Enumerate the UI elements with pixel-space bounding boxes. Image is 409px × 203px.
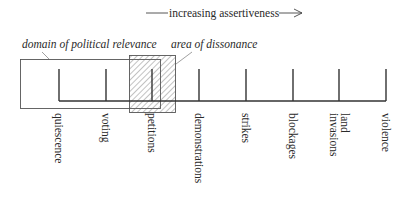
label-quiescence: quiescence [52,113,65,163]
label-petitions: petitions [145,113,158,153]
scale-axis [59,69,386,101]
axis-title-group: increasing assertiveness [146,7,302,20]
label-violence: violence [380,113,392,152]
category-labels: quiescence voting petitions demonstratio… [52,113,392,184]
label-blockages: blockages [286,113,299,160]
domain-leader-line [42,52,49,59]
label-strikes: strikes [240,113,252,144]
dissonance-leader-line [176,52,192,64]
axis-title: increasing assertiveness [169,7,280,20]
assertiveness-diagram: increasing assertiveness domain of polit… [0,0,409,203]
dissonance-label: area of dissonance [171,38,257,51]
label-invasions: invasions [328,113,340,157]
domain-label: domain of political relevance [22,38,157,51]
label-demonstrations: demonstrations [193,113,205,184]
label-voting: voting [99,113,112,143]
